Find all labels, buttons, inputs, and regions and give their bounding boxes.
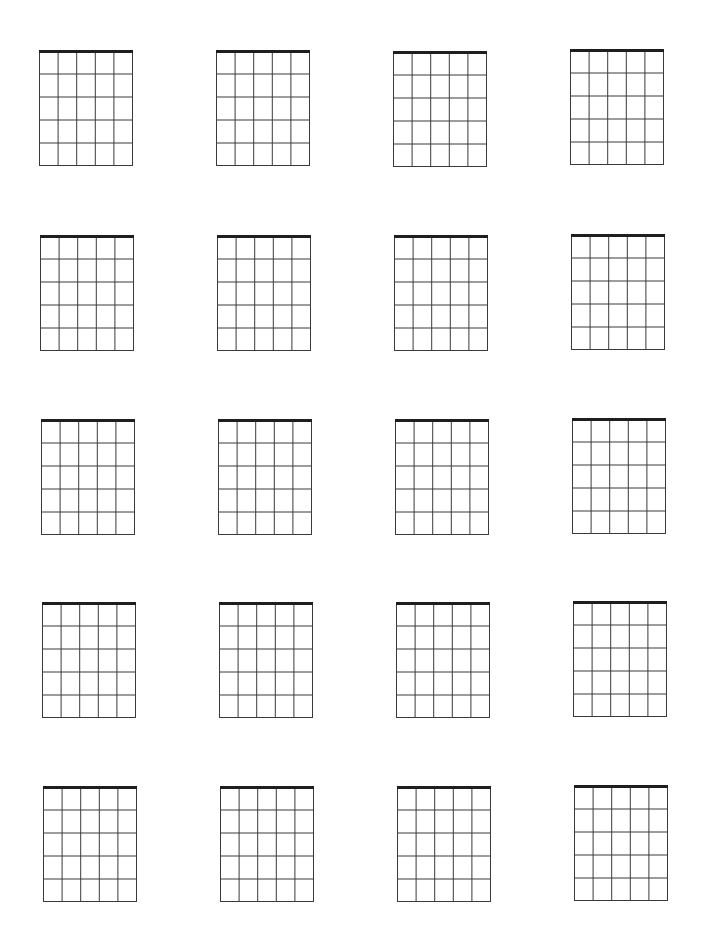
- chord-diagram: [219, 603, 313, 718]
- chord-diagram: [570, 50, 664, 165]
- nut-bar: [573, 601, 667, 604]
- fretboard-grid: [219, 603, 313, 718]
- fretboard-grid: [397, 787, 491, 902]
- nut-bar: [393, 51, 487, 54]
- chord-diagram: [220, 787, 314, 902]
- nut-bar: [395, 419, 489, 422]
- nut-bar: [572, 418, 666, 421]
- chord-diagram: [572, 419, 666, 534]
- fretboard-grid: [40, 236, 134, 351]
- fretboard-grid: [574, 786, 668, 901]
- chord-diagram: [40, 236, 134, 351]
- fretboard-grid: [39, 51, 133, 166]
- fretboard-grid: [573, 602, 667, 717]
- chord-diagram: [571, 235, 665, 350]
- nut-bar: [394, 235, 488, 238]
- fretboard-grid: [570, 50, 664, 165]
- chord-diagram: [395, 420, 489, 535]
- nut-bar: [216, 50, 310, 53]
- nut-bar: [574, 785, 668, 788]
- nut-bar: [397, 786, 491, 789]
- nut-bar: [396, 602, 490, 605]
- chord-diagram: [394, 236, 488, 351]
- nut-bar: [571, 234, 665, 237]
- fretboard-grid: [220, 787, 314, 902]
- fretboard-grid: [395, 420, 489, 535]
- chord-diagram: [216, 51, 310, 166]
- chord-diagram: [39, 51, 133, 166]
- chord-chart-sheet: [0, 0, 704, 943]
- fretboard-grid: [217, 236, 311, 351]
- chord-diagram: [43, 787, 137, 902]
- fretboard-grid: [43, 787, 137, 902]
- fretboard-grid: [396, 603, 490, 718]
- nut-bar: [40, 235, 134, 238]
- nut-bar: [218, 419, 312, 422]
- nut-bar: [220, 786, 314, 789]
- chord-diagram: [41, 420, 135, 535]
- nut-bar: [217, 235, 311, 238]
- chord-diagram: [397, 787, 491, 902]
- nut-bar: [41, 419, 135, 422]
- chord-diagram: [42, 603, 136, 718]
- fretboard-grid: [42, 603, 136, 718]
- fretboard-grid: [393, 52, 487, 167]
- fretboard-grid: [41, 420, 135, 535]
- chord-diagram: [393, 52, 487, 167]
- fretboard-grid: [216, 51, 310, 166]
- fretboard-grid: [571, 235, 665, 350]
- nut-bar: [219, 602, 313, 605]
- fretboard-grid: [394, 236, 488, 351]
- nut-bar: [42, 602, 136, 605]
- fretboard-grid: [218, 420, 312, 535]
- chord-diagram: [218, 420, 312, 535]
- fretboard-grid: [572, 419, 666, 534]
- chord-diagram: [217, 236, 311, 351]
- chord-diagram: [396, 603, 490, 718]
- nut-bar: [43, 786, 137, 789]
- nut-bar: [39, 50, 133, 53]
- nut-bar: [570, 49, 664, 52]
- chord-diagram: [574, 786, 668, 901]
- chord-diagram: [573, 602, 667, 717]
